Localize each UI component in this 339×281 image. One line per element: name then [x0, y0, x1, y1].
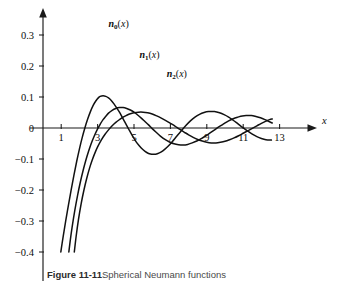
curve-label-n1: n1(x): [139, 49, 159, 62]
curve-label-n2: n2(x): [167, 68, 187, 81]
x-tick-label: 1: [59, 132, 64, 143]
y-tick-labels: 0.30.20.10−0.1−0.2−0.3−0.4: [15, 30, 35, 258]
y-axis-arrowhead: [39, 8, 47, 18]
axes-group: [30, 8, 317, 281]
x-axis-label: x: [321, 115, 327, 126]
curve-n1: [69, 107, 272, 252]
x-axis-arrowhead: [308, 124, 318, 132]
y-tick-label: −0.2: [15, 185, 34, 196]
curves-group: [61, 96, 272, 252]
y-tick-label: 0.3: [21, 30, 34, 41]
y-tick-label: 0: [29, 123, 34, 134]
figure-container: 0.30.20.10−0.1−0.2−0.3−0.4 135791113 n0(…: [0, 0, 339, 281]
curve-n0: [61, 96, 272, 252]
neumann-function-plot: 0.30.20.10−0.1−0.2−0.3−0.4 135791113 n0(…: [0, 0, 339, 281]
curve-n2: [74, 112, 272, 252]
y-tick-label: −0.4: [15, 247, 35, 258]
y-tick-label: −0.3: [15, 216, 34, 227]
y-tick-label: 0.1: [21, 92, 34, 103]
x-tick-label: 13: [274, 132, 285, 143]
curve-label-n0: n0(x): [109, 18, 129, 31]
y-tick-label: 0.2: [21, 61, 34, 72]
y-tick-label: −0.1: [15, 154, 34, 165]
curve-annotations: n0(x)n1(x)n2(x): [109, 18, 187, 81]
